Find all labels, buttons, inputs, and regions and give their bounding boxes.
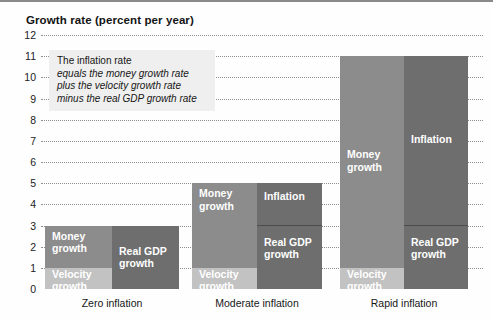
chart-figure: Growth rate (percent per year) 012345678… <box>0 0 493 320</box>
y-axis-tick-label: 4 <box>30 198 36 210</box>
velocity-growth-label-line1: Velocity <box>52 268 112 281</box>
velocity-growth-label-line1: Velocity <box>199 268 257 281</box>
annotation-box: The inflation rate equals the money grow… <box>49 50 215 111</box>
real-gdp-label-line2: growth <box>119 257 179 270</box>
segment-real-gdp-growth[interactable]: Real GDPgrowth <box>112 226 179 290</box>
y-axis-tick-label: 2 <box>30 241 36 253</box>
sources-stack: VelocitygrowthMoneygrowth <box>340 56 404 289</box>
annotation-line-4: minus the real GDP growth rate <box>57 93 208 106</box>
real-gdp-label-line2: growth <box>264 248 322 261</box>
gridline <box>41 35 483 36</box>
y-axis-tick-label: 3 <box>30 220 36 232</box>
segment-velocity-growth[interactable]: Velocitygrowth <box>45 268 112 289</box>
inflation-label: Inflation <box>411 133 468 146</box>
y-axis-tick-label: 12 <box>24 29 36 41</box>
segment-money-growth[interactable]: Moneygrowth <box>45 226 112 268</box>
money-growth-label-line2: growth <box>347 161 404 174</box>
y-axis-tick-label: 5 <box>30 177 36 189</box>
segment-velocity-growth[interactable]: Velocitygrowth <box>340 268 404 289</box>
y-axis-tick-label: 0 <box>30 283 36 295</box>
uses-stack: Real GDPgrowthInflation <box>257 183 322 289</box>
bar-group: VelocitygrowthMoneygrowthReal GDPgrowthI… <box>192 183 322 289</box>
real-gdp-label-line2: growth <box>411 248 468 261</box>
money-growth-label-line1: Money <box>199 187 257 200</box>
money-growth-label-line1: Money <box>52 230 112 243</box>
velocity-growth-label-line2: growth <box>52 280 112 289</box>
segment-divider <box>404 225 468 226</box>
money-growth-label-line2: growth <box>199 200 257 213</box>
bar-group: VelocitygrowthMoneygrowthReal GDPgrowthI… <box>340 56 468 289</box>
money-growth-label-line2: growth <box>52 242 112 255</box>
velocity-growth-label-line2: growth <box>347 280 404 289</box>
segment-real-gdp-growth[interactable]: Real GDPgrowth <box>257 226 322 290</box>
annotation-line-2: equals the money growth rate <box>57 68 208 81</box>
x-axis-category-label: Rapid inflation <box>340 297 468 309</box>
real-gdp-label-line1: Real GDP <box>264 236 322 249</box>
bar-group: VelocitygrowthMoneygrowthReal GDPgrowthZ… <box>45 226 179 290</box>
y-axis-tick-label: 9 <box>30 93 36 105</box>
real-gdp-label-line1: Real GDP <box>411 236 468 249</box>
segment-inflation[interactable]: Inflation <box>257 183 322 225</box>
y-axis-tick-label: 6 <box>30 156 36 168</box>
segment-money-growth[interactable]: Moneygrowth <box>340 56 404 268</box>
real-gdp-label-line1: Real GDP <box>119 245 179 258</box>
y-axis-tick-label: 10 <box>24 71 36 83</box>
money-growth-label-line1: Money <box>347 148 404 161</box>
x-axis-category-label: Moderate inflation <box>192 297 322 309</box>
segment-real-gdp-growth[interactable]: Real GDPgrowth <box>404 226 468 290</box>
velocity-growth-label-line2: growth <box>199 280 257 289</box>
velocity-growth-label-line1: Velocity <box>347 268 404 281</box>
y-axis-tick-label: 8 <box>30 114 36 126</box>
chart-title: Growth rate (percent per year) <box>26 14 194 26</box>
x-axis-category-label: Zero inflation <box>45 297 179 309</box>
annotation-line-1: The inflation rate <box>57 55 208 68</box>
segment-inflation[interactable]: Inflation <box>404 56 468 225</box>
segment-velocity-growth[interactable]: Velocitygrowth <box>192 268 257 289</box>
uses-stack: Real GDPgrowthInflation <box>404 56 468 289</box>
segment-divider <box>257 225 322 226</box>
segment-money-growth[interactable]: Moneygrowth <box>192 183 257 268</box>
y-axis-tick-label: 7 <box>30 135 36 147</box>
sources-stack: VelocitygrowthMoneygrowth <box>192 183 257 289</box>
y-axis-tick-label: 1 <box>30 262 36 274</box>
inflation-label: Inflation <box>264 190 322 203</box>
sources-stack: VelocitygrowthMoneygrowth <box>45 226 112 290</box>
uses-stack: Real GDPgrowth <box>112 226 179 290</box>
annotation-line-3: plus the velocity growth rate <box>57 80 208 93</box>
y-axis-tick-label: 11 <box>25 50 36 62</box>
